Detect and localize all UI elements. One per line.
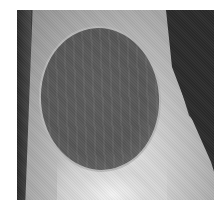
radiograph-image [17,10,214,200]
